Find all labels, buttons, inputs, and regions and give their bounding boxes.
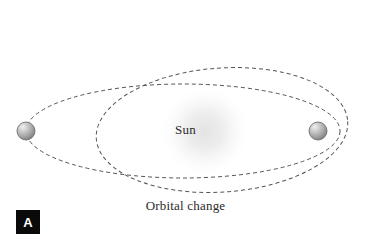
orbital-change-caption: Orbital change xyxy=(0,198,371,214)
orbital-change-figure: Sun Orbital change A xyxy=(0,0,371,249)
sun-label: Sun xyxy=(0,122,371,138)
panel-label-badge: A xyxy=(16,210,40,234)
